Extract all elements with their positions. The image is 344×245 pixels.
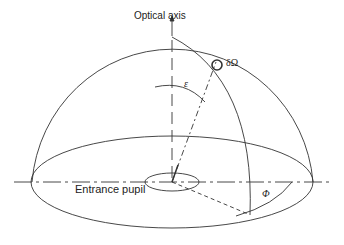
hemisphere-diagram: Optical axis δΩ ε Φ Entrance pupil	[0, 0, 344, 245]
solid-angle-circle	[212, 60, 222, 70]
diagram-drawing	[0, 0, 344, 245]
ray-line	[172, 62, 216, 182]
projected-ray	[172, 182, 248, 214]
meridian-arc	[172, 37, 250, 215]
epsilon-label: ε	[184, 78, 188, 89]
hemisphere-outline	[32, 49, 313, 182]
optical-axis-label: Optical axis	[134, 10, 186, 21]
solid-angle-label: δΩ	[226, 57, 238, 68]
phi-label: Φ	[262, 188, 270, 199]
entrance-pupil-label: Entrance pupil	[75, 183, 145, 195]
